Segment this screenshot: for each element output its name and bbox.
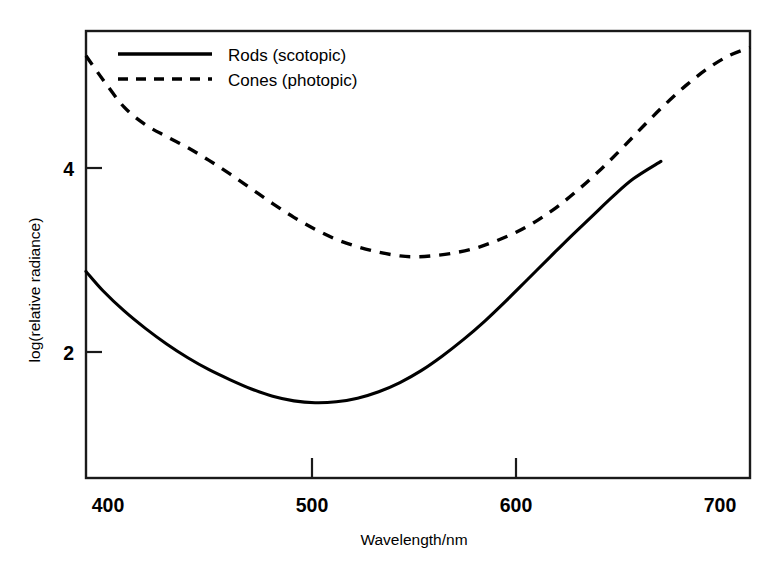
x-tick-label-500: 500 [296,494,329,516]
chart-canvas: 4 2 400 500 600 700 Wavelength/nm log(re… [0,0,784,573]
legend-label-cones: Cones (photopic) [228,71,357,90]
y-axis-title: log(relative radiance) [26,218,43,363]
chart-background [0,0,784,573]
x-axis-title: Wavelength/nm [360,531,467,548]
y-tick-label-2: 2 [63,342,74,364]
chart-figure: 4 2 400 500 600 700 Wavelength/nm log(re… [0,0,784,573]
x-tick-label-400: 400 [92,494,125,516]
legend-label-rods: Rods (scotopic) [228,46,346,65]
y-tick-label-4: 4 [63,158,74,180]
x-tick-label-600: 600 [500,494,533,516]
x-tick-label-700: 700 [704,494,737,516]
